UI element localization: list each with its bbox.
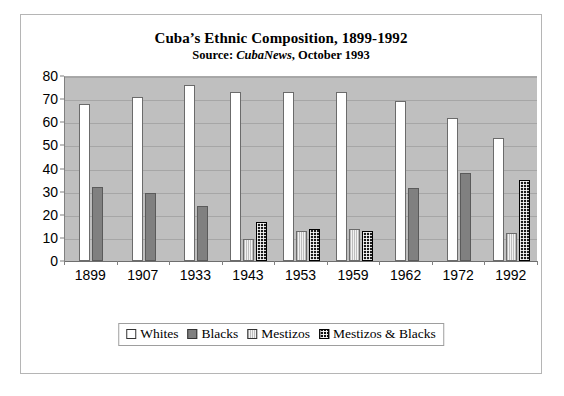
bar-group (118, 77, 171, 261)
y-axis-tick-label: 0 (50, 253, 58, 269)
legend-swatch-icon (188, 329, 198, 339)
x-axis-tick-mark (64, 261, 65, 265)
bar-whites-1943 (230, 92, 241, 261)
bar-whites-1962 (395, 101, 406, 261)
bar-mestizos-blacks-1992 (519, 180, 530, 261)
x-axis-label-1962: 1962 (390, 267, 421, 283)
subtitle-suffix: , October 1993 (292, 48, 370, 62)
bar-mestizos-1943 (243, 239, 254, 261)
y-axis-tick-mark (60, 99, 64, 100)
bar-whites-1933 (184, 85, 195, 261)
bar-whites-1907 (132, 97, 143, 261)
bar-blacks-1933 (197, 206, 208, 262)
x-axis-label-1953: 1953 (285, 267, 316, 283)
y-axis-tick-label: 40 (42, 161, 58, 177)
x-axis-tick-mark (327, 261, 328, 265)
page-title: Cuba’s Ethnic Composition, 1899-1992 (21, 29, 541, 47)
legend-swatch-icon (126, 329, 136, 339)
plot-area (64, 76, 537, 261)
bar-mestizos-blacks-1953 (309, 229, 320, 261)
y-axis-tick-mark (60, 214, 64, 215)
x-axis-label-1899: 1899 (75, 267, 106, 283)
x-axis-line (64, 261, 537, 262)
bar-group (65, 77, 118, 261)
y-axis-tick-label: 50 (42, 137, 58, 153)
bar-mestizos-1992 (506, 233, 517, 261)
bar-mestizos-1953 (296, 231, 307, 261)
legend-item-mestizos[interactable]: Mestizos (247, 326, 310, 342)
legend-label: Whites (140, 326, 178, 342)
chart-legend: WhitesBlacksMestizosMestizos & Blacks (118, 323, 444, 346)
bar-mestizos-blacks-1943 (256, 222, 267, 261)
chart-frame: Cuba’s Ethnic Composition, 1899-1992 Sou… (20, 14, 542, 374)
x-axis-label-1972: 1972 (443, 267, 474, 283)
x-axis-tick-mark (432, 261, 433, 265)
legend-label: Blacks (202, 326, 239, 342)
x-axis-tick-mark (169, 261, 170, 265)
x-axis-labels: 189919071933194319531959196219721992 (64, 267, 537, 287)
y-axis-tick-mark (60, 191, 64, 192)
plot-wrapper: 01020304050607080 (64, 76, 537, 261)
legend-swatch-icon (247, 329, 257, 339)
bar-blacks-1962 (408, 188, 419, 261)
x-axis-tick-mark (484, 261, 485, 265)
y-axis-tick-label: 70 (42, 91, 58, 107)
bar-whites-1992 (493, 138, 504, 261)
legend-label: Mestizos & Blacks (333, 326, 436, 342)
y-axis-tick-label: 80 (42, 68, 58, 84)
y-axis-tick-label: 60 (42, 114, 58, 130)
x-axis-label-1907: 1907 (127, 267, 158, 283)
bar-whites-1899 (79, 104, 90, 261)
bar-mestizos-1959 (349, 229, 360, 261)
y-axis-tick-mark (60, 237, 64, 238)
x-axis-tick-mark (379, 261, 380, 265)
bar-blacks-1899 (92, 187, 103, 261)
bar-group (328, 77, 381, 261)
y-axis-tick-label: 10 (42, 230, 58, 246)
x-axis-tick-mark (117, 261, 118, 265)
x-axis-label-1992: 1992 (495, 267, 526, 283)
legend-item-whites[interactable]: Whites (126, 326, 178, 342)
y-axis-tick-mark (60, 76, 64, 77)
bar-whites-1953 (283, 92, 294, 261)
bar-whites-1959 (336, 92, 347, 261)
y-axis-tick-mark (60, 168, 64, 169)
y-axis-tick-mark (60, 145, 64, 146)
y-axis-tick-label: 30 (42, 184, 58, 200)
legend-swatch-icon (319, 329, 329, 339)
title-block: Cuba’s Ethnic Composition, 1899-1992 Sou… (21, 29, 541, 64)
subtitle-prefix: Source: (192, 48, 236, 62)
bar-group (275, 77, 328, 261)
legend-label: Mestizos (261, 326, 310, 342)
y-axis-tick-label: 20 (42, 207, 58, 223)
bar-blacks-1907 (145, 193, 156, 261)
x-axis-tick-mark (537, 261, 538, 265)
bar-group (433, 77, 486, 261)
x-axis-label-1943: 1943 (232, 267, 263, 283)
x-axis-label-1933: 1933 (180, 267, 211, 283)
y-axis-tick-mark (60, 122, 64, 123)
bar-blacks-1972 (460, 173, 471, 261)
bar-series-container (65, 77, 537, 261)
x-axis-label-1959: 1959 (337, 267, 368, 283)
bar-group (223, 77, 276, 261)
chart-subtitle: Source: CubaNews, October 1993 (21, 47, 541, 64)
bar-mestizos-blacks-1959 (362, 231, 373, 261)
legend-item-blacks[interactable]: Blacks (188, 326, 239, 342)
x-axis-tick-mark (222, 261, 223, 265)
bar-group (485, 77, 538, 261)
bar-group (380, 77, 433, 261)
bar-group (170, 77, 223, 261)
x-axis-tick-mark (274, 261, 275, 265)
subtitle-source-name: CubaNews (236, 48, 292, 62)
bar-whites-1972 (447, 118, 458, 261)
legend-item-mestizos-blacks[interactable]: Mestizos & Blacks (319, 326, 436, 342)
